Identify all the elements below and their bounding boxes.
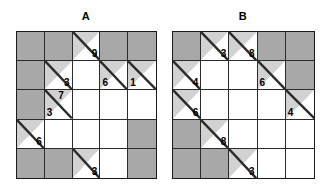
- cell-r2c1: [17, 61, 45, 90]
- cell-r1c2: [45, 32, 73, 61]
- cell-r4c1: [173, 120, 201, 149]
- cell-r5c2: [201, 149, 229, 178]
- cell-r3c1[interactable]: 6: [173, 90, 201, 119]
- cell-r3c2[interactable]: [201, 90, 229, 119]
- clue-upper: 6: [193, 107, 199, 118]
- cell-r1c5: [286, 32, 314, 61]
- grid-b: 38466483: [172, 31, 315, 179]
- clue-lower: 3: [47, 107, 53, 118]
- cell-r1c1: [17, 32, 45, 61]
- cell-r1c1: [173, 32, 201, 61]
- clue-upper: 3: [92, 166, 98, 177]
- cell-r1c2[interactable]: 3: [201, 32, 229, 61]
- cell-r2c3[interactable]: [229, 61, 257, 90]
- clue-upper: 8: [221, 136, 227, 147]
- cell-r3c2[interactable]: 73: [45, 90, 73, 119]
- clue-upper: 6: [36, 136, 42, 147]
- cell-r1c5: [128, 32, 156, 61]
- cell-r3c5[interactable]: [128, 90, 156, 119]
- cell-r5c1: [173, 149, 201, 178]
- cell-r5c1: [17, 149, 45, 178]
- cell-r5c3[interactable]: 3: [73, 149, 101, 178]
- panel-a: A 93617363: [16, 0, 156, 187]
- cell-r5c2: [45, 149, 73, 178]
- cell-r2c4[interactable]: 6: [100, 61, 128, 90]
- clue-upper: 8: [249, 48, 255, 59]
- clue-upper: 9: [92, 48, 98, 59]
- cell-r4c4[interactable]: [100, 120, 128, 149]
- clue-upper: 3: [249, 166, 255, 177]
- cell-r3c4[interactable]: [100, 90, 128, 119]
- cell-r5c4[interactable]: [100, 149, 128, 178]
- grid-a: 93617363: [16, 31, 157, 179]
- panel-b: B 38466483: [172, 0, 314, 187]
- cell-r4c3[interactable]: [229, 120, 257, 149]
- cell-r4c5: [128, 120, 156, 149]
- cell-r4c4[interactable]: [258, 120, 286, 149]
- clue-lower: 4: [288, 107, 294, 118]
- cell-r2c1[interactable]: 4: [173, 61, 201, 90]
- cell-r3c1: [17, 90, 45, 119]
- cell-r5c3[interactable]: 3: [229, 149, 257, 178]
- cell-r2c5[interactable]: 1: [128, 61, 156, 90]
- cell-r3c5[interactable]: 4: [286, 90, 314, 119]
- cell-r5c5: [128, 149, 156, 178]
- cell-r2c2[interactable]: 3: [45, 61, 73, 90]
- cell-r4c1[interactable]: 6: [17, 120, 45, 149]
- cell-r3c3[interactable]: [73, 90, 101, 119]
- cell-r4c2[interactable]: [45, 120, 73, 149]
- cell-r4c3[interactable]: [73, 120, 101, 149]
- clue-lower: 6: [260, 77, 266, 88]
- kakuro-figure: A 93617363 B 38466483: [0, 0, 328, 187]
- cell-r2c4[interactable]: 6: [258, 61, 286, 90]
- cell-r1c3[interactable]: 8: [229, 32, 257, 61]
- cell-r2c2[interactable]: [201, 61, 229, 90]
- cell-r2c3[interactable]: [73, 61, 101, 90]
- cell-r3c3[interactable]: [229, 90, 257, 119]
- cell-r5c4[interactable]: [258, 149, 286, 178]
- cell-r4c5[interactable]: [286, 120, 314, 149]
- cell-r5c5[interactable]: [286, 149, 314, 178]
- cell-r4c2[interactable]: 8: [201, 120, 229, 149]
- cell-r2c5: [286, 61, 314, 90]
- clue-upper: 7: [58, 90, 64, 101]
- cell-r1c3[interactable]: 9: [73, 32, 101, 61]
- panel-a-label: A: [16, 10, 156, 22]
- grid-b-cells: 38466483: [173, 32, 314, 178]
- panel-b-label: B: [172, 10, 314, 22]
- cell-r1c4: [100, 32, 128, 61]
- clue-lower: 6: [102, 77, 108, 88]
- clue-upper: 4: [193, 77, 199, 88]
- clue-lower: 1: [130, 77, 136, 88]
- cell-r3c4[interactable]: [258, 90, 286, 119]
- cell-r1c4: [258, 32, 286, 61]
- grid-a-cells: 93617363: [17, 32, 156, 178]
- clue-upper: 3: [221, 48, 227, 59]
- clue-upper: 3: [64, 77, 70, 88]
